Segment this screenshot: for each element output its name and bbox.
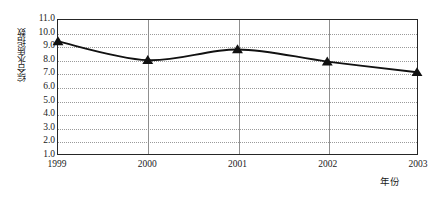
- y-axis-tick-label: 4.0: [30, 109, 55, 119]
- y-axis-tick-label: 5.0: [30, 96, 55, 106]
- y-axis-tick-label: 6.0: [30, 82, 55, 92]
- x-axis-tick-label: 2000: [117, 158, 177, 170]
- y-axis-tick-label: 7.0: [30, 69, 55, 79]
- x-axis-tick-label: 2001: [208, 158, 268, 170]
- y-axis-tick-label: 9.0: [30, 41, 55, 51]
- y-axis-tick-label: 8.0: [30, 55, 55, 65]
- x-axis-tick-labels: 19992000200120022003: [57, 158, 418, 172]
- water-quality-index-line-chart: 综合水质指数 11.010.09.08.07.06.05.04.03.02.01…: [0, 0, 435, 198]
- x-axis-title: 年份: [360, 176, 420, 188]
- y-axis-tick-label: 3.0: [30, 123, 55, 133]
- series-line-water-quality-index: [58, 20, 417, 154]
- y-axis-tick-label: 11.0: [30, 14, 55, 24]
- y-axis-tick-label: 2.0: [30, 137, 55, 147]
- x-axis-tick-label: 2003: [388, 158, 435, 170]
- x-axis-tick-label: 1999: [27, 158, 87, 170]
- plot-area: [57, 19, 418, 155]
- y-axis-tick-label: 10.0: [30, 28, 55, 38]
- x-axis-tick-label: 2002: [298, 158, 358, 170]
- y-axis-tick-labels: 11.010.09.08.07.06.05.04.03.02.01.0: [30, 19, 55, 155]
